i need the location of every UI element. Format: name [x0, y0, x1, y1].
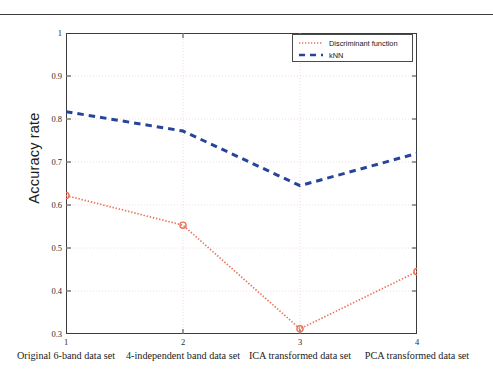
x-tick-marks-group [66, 33, 417, 334]
x-tick-label: 1 [46, 337, 86, 347]
x-axis-tick-labels: 1234 [66, 337, 417, 349]
plot-canvas [66, 33, 417, 334]
chart-legend: Discriminant function kNN [292, 34, 413, 62]
legend-swatch-dashed-icon [298, 50, 324, 60]
x-axis-category-captions: Original 6-band data set4-independent ba… [0, 350, 493, 368]
x-tick-label: 3 [280, 337, 320, 347]
category-caption: PCA transformed data set [342, 350, 492, 361]
y-tick-label: 0.5 [40, 244, 62, 253]
legend-label-knn: kNN [329, 51, 343, 60]
y-tick-label: 0.8 [40, 115, 62, 124]
y-tick-label: 0.9 [40, 72, 62, 81]
series-lines-group [66, 112, 417, 329]
y-axis-title: Accuracy rate [26, 88, 42, 228]
figure-chart-accuracy-rate: 10.90.80.70.60.50.40.3 Accuracy rate 123… [0, 0, 493, 381]
y-tick-label: 1 [40, 29, 62, 38]
legend-swatch-dotted-icon [298, 38, 324, 48]
y-tick-label: 0.7 [40, 158, 62, 167]
x-tick-label: 2 [163, 337, 203, 347]
gridlines-group [66, 33, 417, 334]
legend-item-discriminant-function: Discriminant function [293, 37, 412, 49]
series-markers-group [66, 192, 417, 332]
series-line-knn [66, 112, 417, 186]
page-divider-rule [0, 14, 493, 15]
y-tick-label: 0.4 [40, 287, 62, 296]
x-tick-label: 4 [397, 337, 437, 347]
y-tick-label: 0.6 [40, 201, 62, 210]
legend-item-knn: kNN [293, 49, 412, 61]
y-tick-marks-group [66, 33, 417, 334]
legend-label-discriminant-function: Discriminant function [329, 39, 398, 48]
series-line-discriminant-function [66, 196, 417, 329]
